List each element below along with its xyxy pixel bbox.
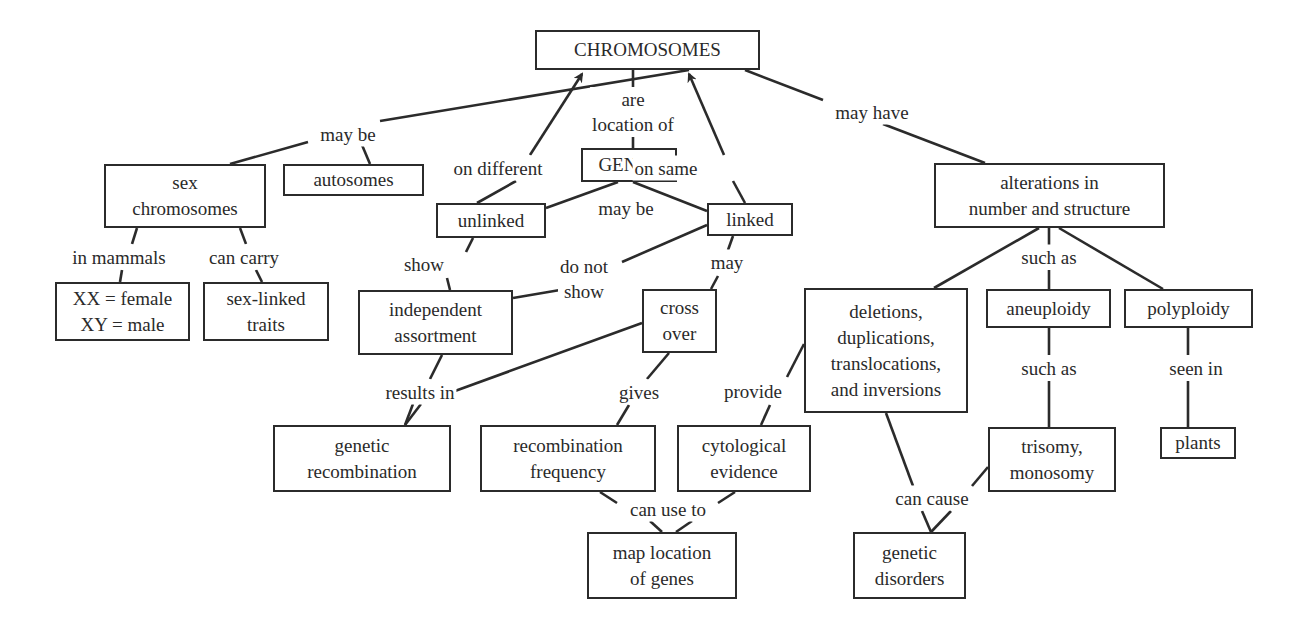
line-connector bbox=[972, 467, 988, 486]
line-connector bbox=[622, 225, 707, 262]
node-deletions: deletions, duplications, translocations,… bbox=[804, 288, 968, 413]
line-connector bbox=[362, 145, 370, 164]
line-connector bbox=[922, 511, 931, 532]
node-genetic-recombination: genetic recombination bbox=[273, 425, 451, 492]
line-connector bbox=[711, 276, 718, 289]
line-connector bbox=[733, 181, 745, 203]
link-label-may-have: may have bbox=[833, 100, 910, 125]
link-label-on-different: on different bbox=[452, 156, 545, 181]
line-connector bbox=[883, 124, 985, 163]
arrow-connector bbox=[689, 74, 724, 155]
node-xx-xy: XX = female XY = male bbox=[55, 282, 190, 341]
node-cytological-evidence: cytological evidence bbox=[677, 425, 811, 492]
line-connector bbox=[676, 521, 692, 532]
link-label-may-be-2: may be bbox=[596, 196, 655, 221]
link-label-provide: provide bbox=[722, 379, 784, 404]
line-connector bbox=[256, 270, 262, 282]
line-connector bbox=[513, 290, 560, 298]
line-connector bbox=[240, 228, 246, 244]
node-map-location: map location of genes bbox=[587, 532, 737, 599]
link-label-show: show bbox=[402, 252, 446, 277]
line-connector bbox=[745, 70, 823, 100]
link-label-on-same: on same bbox=[633, 156, 700, 181]
link-label-such-as-1: such as bbox=[1019, 245, 1078, 270]
line-connector bbox=[787, 344, 804, 377]
line-connector bbox=[617, 405, 629, 425]
line-connector bbox=[650, 521, 662, 532]
link-label-results-in: results in bbox=[383, 380, 456, 405]
link-label-are-location-of: are location of bbox=[590, 87, 676, 137]
line-connector bbox=[230, 142, 308, 164]
line-connector bbox=[718, 492, 735, 503]
line-connector bbox=[761, 405, 770, 425]
line-connector bbox=[600, 492, 617, 503]
arrow-connector bbox=[530, 74, 582, 155]
link-label-may: may bbox=[709, 250, 746, 275]
node-sex-linked-traits: sex-linked traits bbox=[203, 282, 329, 341]
node-polyploidy: polyploidy bbox=[1124, 289, 1253, 328]
node-independent-assortment: independent assortment bbox=[358, 290, 513, 355]
node-plants: plants bbox=[1160, 427, 1236, 459]
line-connector bbox=[120, 270, 122, 282]
link-label-may-be-1: may be bbox=[318, 122, 377, 147]
link-label-seen-in: seen in bbox=[1167, 356, 1224, 381]
link-label-can-carry: can carry bbox=[207, 245, 281, 270]
line-connector bbox=[728, 236, 733, 250]
node-chromosomes: CHROMOSOMES bbox=[535, 30, 760, 70]
node-cross-over: cross over bbox=[642, 289, 717, 353]
line-connector bbox=[466, 238, 473, 252]
line-connector bbox=[647, 353, 669, 379]
node-alterations: alterations in number and structure bbox=[934, 163, 1165, 228]
link-label-in-mammals: in mammals bbox=[70, 245, 167, 270]
node-recombination-frequency: recombination frequency bbox=[480, 425, 656, 492]
node-unlinked: unlinked bbox=[436, 203, 546, 238]
link-label-such-as-2: such as bbox=[1019, 356, 1078, 381]
link-label-can-use-to: can use to bbox=[628, 497, 708, 522]
line-connector bbox=[430, 355, 442, 379]
node-trisomy-monosomy: trisomy, monosomy bbox=[988, 427, 1116, 492]
line-connector bbox=[886, 413, 913, 486]
node-sex-chromosomes: sex chromosomes bbox=[104, 164, 266, 228]
node-aneuploidy: aneuploidy bbox=[986, 289, 1111, 328]
link-label-can-cause: can cause bbox=[893, 486, 970, 511]
line-connector bbox=[447, 278, 450, 290]
concept-map: CHROMOSOMESGENESsex chromosomesautosomes… bbox=[0, 0, 1312, 635]
line-connector bbox=[931, 511, 951, 532]
link-label-do-not-show: do not show bbox=[558, 254, 610, 304]
node-genetic-disorders: genetic disorders bbox=[853, 532, 966, 599]
line-connector bbox=[132, 228, 137, 244]
link-label-gives: gives bbox=[617, 380, 661, 405]
node-autosomes: autosomes bbox=[283, 164, 424, 196]
node-linked: linked bbox=[707, 203, 793, 236]
line-connector bbox=[477, 181, 516, 203]
